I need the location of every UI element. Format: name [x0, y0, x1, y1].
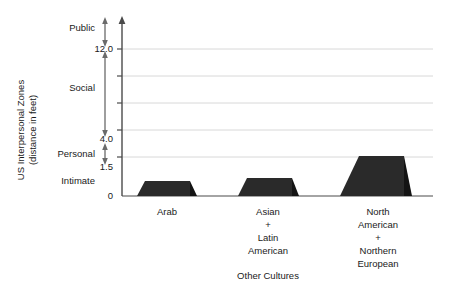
bar-front-face — [340, 156, 404, 196]
y-axis-title-line2: (distance in feet) — [27, 95, 38, 165]
bar-side-face — [190, 181, 197, 196]
y-tick-label-1-5: 1.5 — [100, 161, 113, 172]
category-label-line: North — [366, 206, 389, 217]
category-label-arab: Arab — [157, 206, 177, 217]
category-label-line: + — [375, 232, 381, 243]
zone-label-social: Social — [69, 82, 95, 93]
category-label-line: American — [248, 245, 288, 256]
x-axis-title: Other Cultures — [237, 270, 299, 281]
category-label-line: + — [265, 219, 271, 230]
category-label-line: Asian — [256, 206, 280, 217]
bar-asian-latin-american — [238, 178, 299, 196]
y-axis — [117, 16, 125, 196]
interpersonal-zones-bar-chart: 12.0 4.0 1.5 0 Public Social Personal In… — [0, 0, 451, 292]
y-tick-label-4: 4.0 — [100, 133, 113, 144]
arrow-up-icon — [102, 17, 108, 24]
bar-front-face — [238, 178, 292, 196]
bar-side-face — [404, 156, 412, 196]
category-label-line: Latin — [258, 232, 279, 243]
y-tick-label-0: 0 — [108, 190, 113, 201]
y-tick-label-12: 12.0 — [95, 43, 114, 54]
arrow-up-icon — [102, 143, 108, 150]
gridlines — [122, 49, 433, 157]
bar-front-face — [137, 181, 190, 196]
category-label-line: Northern — [360, 245, 397, 256]
bar-side-face — [292, 178, 299, 196]
zone-label-personal: Personal — [58, 148, 96, 159]
y-axis-arrowhead-icon — [119, 16, 126, 24]
bar-north-american-northern-european — [340, 156, 412, 196]
chart-container: 12.0 4.0 1.5 0 Public Social Personal In… — [0, 0, 451, 292]
category-label-line: Arab — [157, 206, 177, 217]
category-label-line: European — [357, 258, 398, 269]
category-label-asian-latin-american: Asian + Latin American — [248, 206, 288, 256]
bar-arab — [137, 181, 197, 196]
category-label-line: American — [358, 219, 398, 230]
zone-label-public: Public — [69, 22, 95, 33]
y-axis-title-line1: US Interpersonal Zones — [15, 80, 26, 181]
category-label-north-american-northern-european: North American + Northern European — [357, 206, 398, 269]
y-axis-title: US Interpersonal Zones (distance in feet… — [15, 80, 38, 181]
zone-label-intimate: Intimate — [61, 175, 95, 186]
